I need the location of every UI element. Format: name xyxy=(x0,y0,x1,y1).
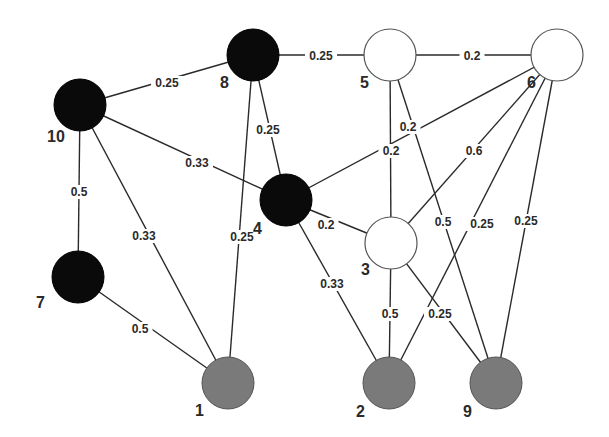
edge-weight-10-4: 0.33 xyxy=(181,156,213,170)
edge-weight-text: 0.25 xyxy=(230,230,254,244)
node-label: 10 xyxy=(47,128,65,145)
edge-weight-text: 0.25 xyxy=(514,214,538,228)
node-label: 3 xyxy=(361,261,370,278)
node-circle-black xyxy=(260,174,312,226)
node-circle-white xyxy=(364,29,416,81)
node-label: 8 xyxy=(220,74,229,91)
edge-weight-6-9: 0.25 xyxy=(510,214,542,228)
edge-weight-text: 0.5 xyxy=(382,307,399,321)
edge-weight-5-3: 0.2 xyxy=(379,144,404,158)
node-circle-gray xyxy=(470,357,522,409)
node-4: 4 xyxy=(253,174,312,237)
node-7: 7 xyxy=(36,251,104,311)
node-circle-white xyxy=(365,217,417,269)
edge-weight-text: 0.25 xyxy=(309,49,333,63)
edge-8-1 xyxy=(228,55,253,383)
edge-weight-4-3: 0.2 xyxy=(314,218,339,232)
edge-weight-text: 0.33 xyxy=(320,277,344,291)
edge-weight-3-2: 0.5 xyxy=(378,307,403,321)
edge-weight-3-9: 0.25 xyxy=(424,307,456,321)
node-circle-gray xyxy=(202,357,254,409)
node-label: 2 xyxy=(356,403,365,420)
edge-weight-text: 0.5 xyxy=(435,215,452,229)
edge-weight-10-7: 0.5 xyxy=(67,185,92,199)
node-3: 3 xyxy=(361,217,417,278)
node-6: 6 xyxy=(527,29,583,91)
edge-weight-5-9: 0.5 xyxy=(431,215,456,229)
edge-weight-5-6: 0.2 xyxy=(460,49,485,63)
node-9: 9 xyxy=(463,357,522,420)
node-10: 10 xyxy=(47,79,106,145)
edge-7-1 xyxy=(78,277,228,383)
edge-weight-text: 0.25 xyxy=(428,307,452,321)
node-2: 2 xyxy=(356,357,415,420)
edge-4-6 xyxy=(286,55,557,200)
edge-weight-6-2: 0.25 xyxy=(466,217,498,231)
node-label: 7 xyxy=(36,294,45,311)
edge-weight-7-1: 0.5 xyxy=(128,322,153,336)
edge-weight-6-3: 0.6 xyxy=(462,144,487,158)
edge-weight-text: 0.33 xyxy=(185,156,209,170)
edge-weight-text: 0.2 xyxy=(400,120,417,134)
edge-weight-text: 0.5 xyxy=(71,185,88,199)
edge-weight-text: 0.25 xyxy=(470,217,494,231)
node-circle-black xyxy=(52,251,104,303)
edge-weight-text: 0.6 xyxy=(466,144,483,158)
node-circle-white xyxy=(531,29,583,81)
edge-10-4 xyxy=(80,105,286,200)
graph-diagram: 0.250.250.20.330.50.330.250.250.20.20.60… xyxy=(0,0,609,437)
node-label: 5 xyxy=(360,74,369,91)
node-8: 8 xyxy=(220,29,279,91)
edge-weight-4-6: 0.2 xyxy=(396,120,421,134)
nodes-layer: 10856437129 xyxy=(36,29,583,420)
edge-10-1 xyxy=(80,105,228,383)
node-circle-black xyxy=(54,79,106,131)
edge-weight-text: 0.2 xyxy=(318,218,335,232)
edge-weight-4-2: 0.33 xyxy=(316,277,348,291)
node-label: 1 xyxy=(195,402,204,419)
node-label: 4 xyxy=(253,220,262,237)
edge-weight-text: 0.5 xyxy=(132,322,149,336)
edge-weight-text: 0.2 xyxy=(383,144,400,158)
edge-weight-text: 0.25 xyxy=(256,123,280,137)
node-5: 5 xyxy=(360,29,416,91)
edge-weight-text: 0.2 xyxy=(464,49,481,63)
edge-weight-8-4: 0.25 xyxy=(252,123,284,137)
node-label: 6 xyxy=(527,74,536,91)
node-circle-gray xyxy=(363,357,415,409)
edge-weight-10-1: 0.33 xyxy=(128,229,160,243)
node-label: 9 xyxy=(463,403,472,420)
node-circle-black xyxy=(227,29,279,81)
edge-weight-10-8: 0.25 xyxy=(151,76,183,90)
edge-weight-8-5: 0.25 xyxy=(305,49,337,63)
edge-weight-text: 0.25 xyxy=(155,76,179,90)
edge-weight-text: 0.33 xyxy=(132,229,156,243)
